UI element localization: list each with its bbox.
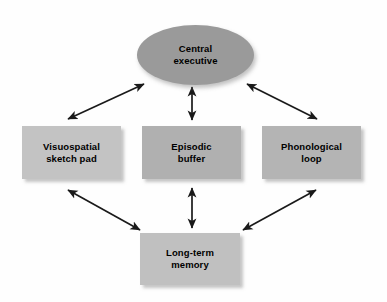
node-visuospatial-sketch-pad-label: Visuospatial sketch pad [43,141,100,164]
connector-visuospatial-sketch-pad-to-long-term-memory [68,190,140,230]
working-memory-diagram: Central executive Visuospatial sketch pa… [0,0,387,302]
node-long-term-memory-label: Long-term memory [166,247,214,270]
node-episodic-buffer[interactable]: Episodic buffer [142,126,241,179]
node-central-executive[interactable]: Central executive [137,25,254,85]
node-episodic-buffer-label: Episodic buffer [171,141,211,164]
connector-central-executive-to-phonological-loop [247,84,317,119]
connector-central-executive-to-visuospatial-sketch-pad [68,84,144,119]
node-phonological-loop-label: Phonological loop [281,141,342,164]
connector-phonological-loop-to-long-term-memory [243,190,316,230]
node-phonological-loop[interactable]: Phonological loop [262,126,361,179]
node-long-term-memory[interactable]: Long-term memory [140,233,240,285]
node-central-executive-label: Central executive [173,43,217,66]
node-visuospatial-sketch-pad[interactable]: Visuospatial sketch pad [22,126,121,179]
